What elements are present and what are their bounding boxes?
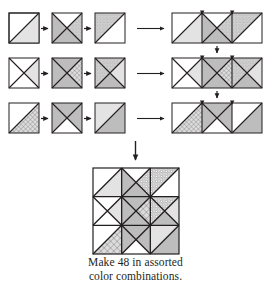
unit-2-3 [95,58,125,88]
strip-row-3 [172,101,262,134]
unit-3-2 [52,103,82,133]
strip-row-2 [172,56,262,89]
unit-1-2 [52,13,82,43]
unit-1-3 [95,13,125,43]
finished-block [93,168,179,254]
strip-row-1 [172,11,262,44]
diagram-canvas [0,0,271,290]
unit-1-1 [9,13,39,43]
figure-caption: Make 48 in assorted color combinations. [0,256,271,283]
unit-2-2 [52,58,82,88]
caption-line-1: Make 48 in assorted [0,256,271,270]
unit-3-3 [95,103,125,133]
unit-3-1 [9,103,39,133]
caption-line-2: color combinations. [0,270,271,284]
unit-2-1 [9,58,39,88]
quilt-diagram [0,0,271,290]
